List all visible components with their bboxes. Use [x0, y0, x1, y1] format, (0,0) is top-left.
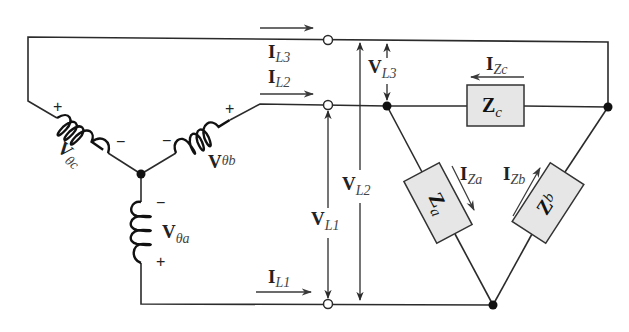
- label-il3: IL3: [268, 41, 290, 65]
- label-iza: IZa: [460, 163, 482, 187]
- label-vl2: VL2: [342, 173, 371, 198]
- line-1-wire: [141, 263, 493, 305]
- label-v-theta-a: Vθa: [162, 221, 190, 246]
- wye-leg-c: [108, 153, 141, 174]
- label-vl1: VL1: [311, 208, 340, 233]
- polarity-a-plus: +: [156, 253, 165, 270]
- label-il1: IL1: [268, 266, 290, 290]
- terminal-line-2: [324, 101, 333, 110]
- terminal-line-1: [324, 300, 333, 309]
- polarity-a-minus: −: [156, 194, 165, 211]
- delta-leg-a-upper: [387, 106, 422, 172]
- coil-phase-a: [131, 202, 151, 263]
- delta-node-bottom: [489, 301, 498, 310]
- polarity-c-plus: +: [53, 98, 62, 115]
- label-v-theta-c: Vθc: [52, 137, 89, 173]
- delta-leg-a-lower: [455, 234, 493, 305]
- delta-leg-b-upper: [565, 107, 608, 172]
- three-phase-circuit-diagram: Za Zb Zc IL3 IL2 IL1 VL1: [0, 0, 629, 332]
- wye-neutral-node: [137, 170, 146, 179]
- line-2-wire: [230, 104, 387, 120]
- polarity-b-minus: −: [162, 132, 171, 149]
- label-v-theta-b: Vθb: [208, 151, 236, 172]
- polarity-b-plus: +: [225, 100, 234, 117]
- label-izc: IZc: [486, 53, 508, 77]
- label-izb: IZb: [503, 163, 525, 187]
- label-vl3: VL3: [368, 56, 397, 81]
- label-il2: IL2: [268, 66, 290, 90]
- delta-leg-b-lower: [493, 234, 532, 305]
- delta-node-left: [383, 102, 392, 111]
- delta-top-wire-right: [524, 106, 608, 107]
- wye-leg-b: [141, 153, 176, 174]
- terminal-line-3: [324, 36, 333, 45]
- delta-node-right: [604, 103, 613, 112]
- polarity-c-minus: −: [116, 133, 125, 150]
